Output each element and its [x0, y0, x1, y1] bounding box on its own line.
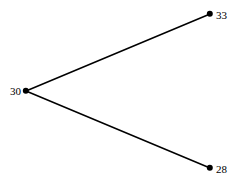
node-lower-label: 28 — [216, 164, 227, 175]
node-upper-label: 33 — [216, 10, 227, 21]
edge-layer — [0, 0, 236, 180]
node-link-diagram: 30 33 28 — [0, 0, 236, 180]
node-root-label: 30 — [10, 86, 21, 97]
edge-root-to-upper — [26, 14, 210, 91]
edge-root-to-lower — [26, 91, 210, 168]
